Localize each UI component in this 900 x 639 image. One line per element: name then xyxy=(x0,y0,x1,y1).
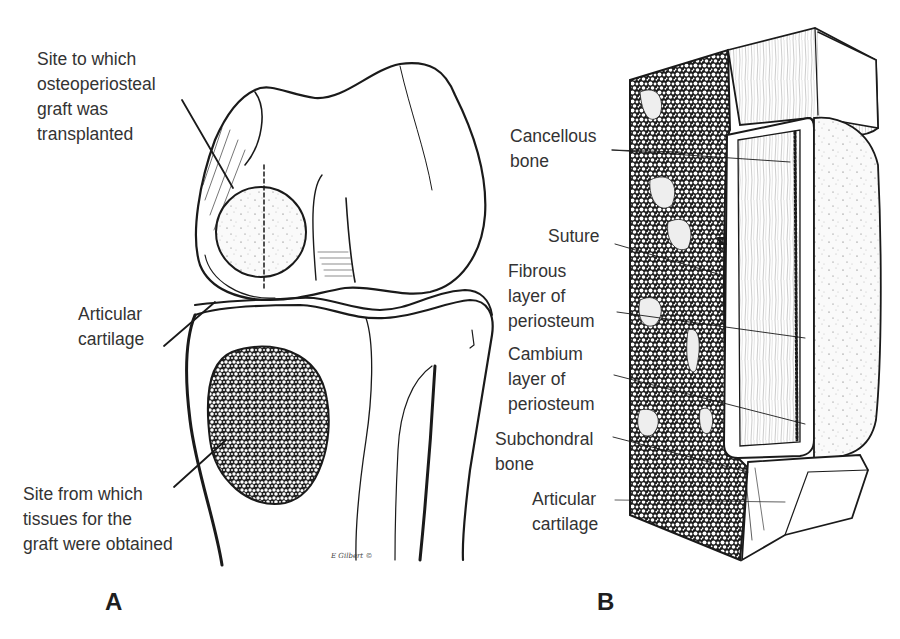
panel-b-graft-section xyxy=(612,28,881,560)
donor-site-oval xyxy=(208,347,329,504)
subchondral-slab xyxy=(814,118,881,460)
label-line: Site to which xyxy=(37,47,156,72)
label-line: tissues for the xyxy=(23,507,173,532)
label-line: osteoperiosteal xyxy=(37,72,156,97)
label-line: Articular xyxy=(532,487,598,512)
label-line: Site from which xyxy=(23,482,173,507)
artist-signature: E Gilbert © xyxy=(331,552,372,560)
label-line: graft was xyxy=(37,97,156,122)
label-fibrous-layer: Fibrous layer of periosteum xyxy=(508,259,595,334)
label-articular-cartilage-a: Articular cartilage xyxy=(78,302,144,352)
label-cancellous-bone: Cancellous bone xyxy=(510,124,597,174)
label-line: layer of xyxy=(508,284,595,309)
label-line: Cancellous xyxy=(510,124,597,149)
label-subchondral-bone: Subchondral bone xyxy=(495,427,593,477)
label-suture: Suture xyxy=(548,224,600,249)
label-line: periosteum xyxy=(508,392,595,417)
label-line: Cambium xyxy=(508,342,595,367)
label-line: bone xyxy=(495,452,593,477)
label-graft-site: Site to which osteoperiosteal graft was … xyxy=(37,47,156,147)
label-articular-cartilage-b: Articular cartilage xyxy=(532,487,598,537)
label-line: layer of xyxy=(508,367,595,392)
label-line: Fibrous xyxy=(508,259,595,284)
label-line: Suture xyxy=(548,224,600,249)
graft-site-circle xyxy=(216,187,306,277)
label-line: cartilage xyxy=(532,512,598,537)
label-line: transplanted xyxy=(37,122,156,147)
label-line: periosteum xyxy=(508,309,595,334)
label-line: graft were obtained xyxy=(23,532,173,557)
label-line: cartilage xyxy=(78,327,144,352)
label-donor-site: Site from which tissues for the graft we… xyxy=(23,482,173,557)
label-line: Articular xyxy=(78,302,144,327)
label-line: bone xyxy=(510,149,597,174)
label-cambium-layer: Cambium layer of periosteum xyxy=(508,342,595,417)
label-line: Subchondral xyxy=(495,427,593,452)
panel-letter-b: B xyxy=(597,588,614,616)
panel-letter-a: A xyxy=(105,588,122,616)
panel-a-knee-drawing xyxy=(164,63,493,565)
